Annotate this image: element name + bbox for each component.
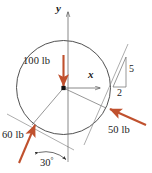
center-point-marker xyxy=(61,86,65,90)
force-arrow-50lb xyxy=(110,109,146,125)
degree-symbol: ° xyxy=(51,156,54,165)
y-axis-label: y xyxy=(56,3,61,14)
force-label-100lb: 100 lb xyxy=(23,56,50,67)
radius-line-60lb xyxy=(32,88,64,125)
diagram-canvas xyxy=(0,0,152,173)
slope-run-label: 2 xyxy=(117,88,122,98)
slope-triangle-hypotenuse xyxy=(113,57,126,87)
force-label-60lb: 60 lb xyxy=(2,130,24,141)
x-axis-label: x xyxy=(88,69,94,80)
slope-rise-label: 5 xyxy=(129,64,134,74)
angle-label-30: 30° xyxy=(40,158,54,169)
radius-line-50lb xyxy=(64,88,107,108)
force-label-50lb: 50 lb xyxy=(108,125,130,136)
free-body-diagram-figure: y x 100 lb 50 lb 60 lb 5 2 30° xyxy=(0,0,152,173)
angle-label-value: 30 xyxy=(40,157,51,168)
